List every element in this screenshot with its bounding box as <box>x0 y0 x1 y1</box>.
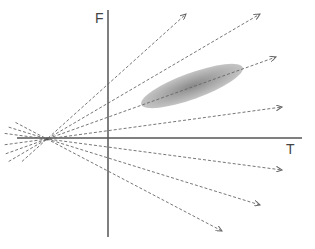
fan-diagram: T F <box>0 0 315 249</box>
highlight-ellipse <box>137 55 247 116</box>
t-axis-label: T <box>286 141 295 157</box>
f-axis-label: F <box>95 10 104 26</box>
convergence-point <box>46 138 49 141</box>
highlight-region <box>137 55 247 116</box>
rays <box>5 14 282 231</box>
